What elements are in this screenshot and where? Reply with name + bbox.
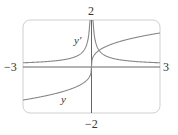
- graph-figure: 2 −2 −3 3 y′ y: [0, 0, 178, 135]
- y-curve-label: y: [61, 94, 66, 105]
- y-min-label: −2: [85, 118, 98, 130]
- x-min-label: −3: [4, 61, 17, 73]
- plot-area: [0, 0, 178, 135]
- y-max-label: 2: [88, 5, 94, 17]
- y-prime-curve-label: y′: [74, 35, 81, 46]
- x-max-label: 3: [163, 61, 169, 73]
- curve-y-prime-right: [93, 20, 160, 63]
